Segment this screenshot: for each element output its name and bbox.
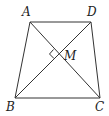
segment-ab — [15, 22, 30, 98]
trapezoid-diagram: A D M B C — [0, 0, 109, 116]
segment-dc — [91, 22, 100, 98]
label-b: B — [5, 100, 15, 114]
diagonal-bd — [15, 22, 91, 98]
label-c: C — [95, 100, 104, 114]
label-d: D — [86, 5, 97, 19]
label-a: A — [21, 5, 31, 19]
right-angle-mark — [50, 50, 55, 59]
label-m: M — [63, 49, 77, 63]
